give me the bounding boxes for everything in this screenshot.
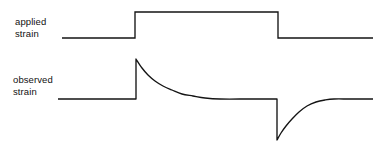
strain-response-figure: applied strain observed strain xyxy=(0,0,392,150)
plot-background xyxy=(0,0,392,150)
observed-strain-label-line2: strain xyxy=(13,86,53,98)
applied-strain-label: applied strain xyxy=(15,16,46,40)
observed-strain-label-line1: observed xyxy=(13,74,53,86)
observed-strain-label: observed strain xyxy=(13,74,53,98)
applied-strain-label-line2: strain xyxy=(15,28,46,40)
applied-strain-label-line1: applied xyxy=(15,16,46,28)
plot-canvas xyxy=(0,0,392,150)
